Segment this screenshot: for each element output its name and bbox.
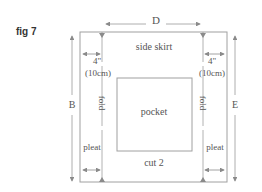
pocket-label: pocket: [141, 106, 168, 117]
side-skirt-pattern-diagram: D B E 4" (10cm) 4" (10cm) side skirt poc…: [0, 0, 262, 192]
right-fold-notch-top: [200, 33, 206, 38]
right-pleat-label: pleat: [206, 142, 224, 152]
right-fold-notch-bottom: [200, 177, 206, 182]
left-allowance-cm: (10cm): [85, 68, 111, 78]
left-fold-notch-top: [99, 33, 105, 38]
right-allowance-inches: 4": [208, 56, 217, 66]
right-allowance-cm: (10cm): [199, 68, 225, 78]
cut-label: cut 2: [144, 157, 164, 168]
dimension-b-label: B: [69, 99, 76, 110]
left-fold-label: fold: [97, 96, 107, 111]
right-fold-label: fold: [198, 96, 208, 111]
pattern-title: side skirt: [136, 41, 173, 52]
left-allowance-inches: 4": [93, 56, 102, 66]
dimension-d-label: D: [152, 14, 160, 26]
left-fold-notch-bottom: [99, 177, 105, 182]
dimension-e-label: E: [232, 99, 238, 110]
left-pleat-label: pleat: [83, 142, 101, 152]
